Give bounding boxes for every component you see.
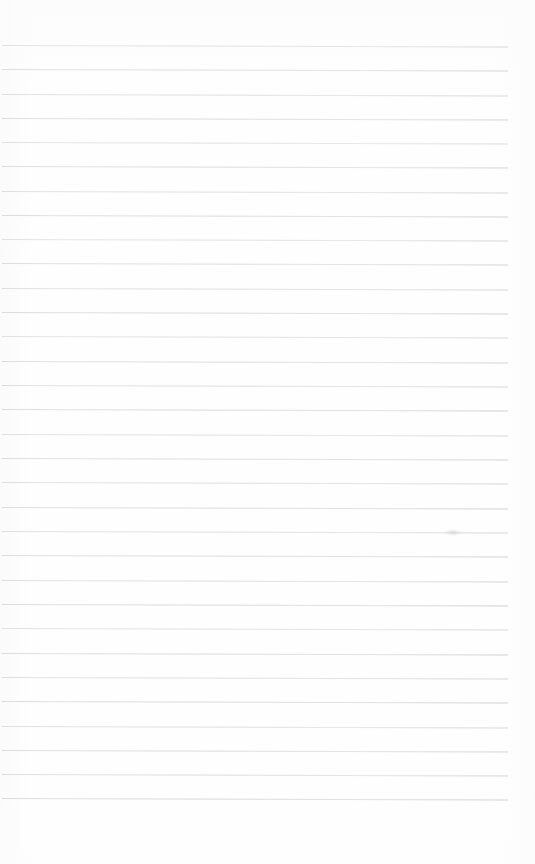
notebook-page (0, 0, 535, 864)
writing-area[interactable] (2, 45, 508, 799)
